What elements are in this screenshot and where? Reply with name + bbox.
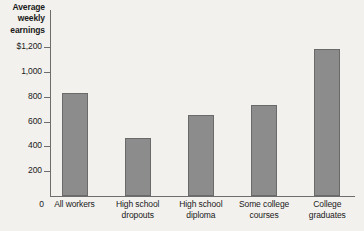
y-axis-line	[50, 10, 51, 197]
y-axis-tick	[44, 122, 50, 123]
y-axis-tick-label: 600	[0, 116, 42, 126]
chart-axis-title: Average weekly earnings	[0, 2, 45, 36]
bar	[251, 105, 277, 196]
axis-title-line-1: Average	[0, 2, 45, 13]
category-label-line: graduates	[287, 210, 364, 221]
bar-chart: Average weekly earnings 2004006008001,00…	[0, 0, 364, 231]
y-axis-tick-label: 800	[0, 91, 42, 101]
y-axis-tick	[44, 47, 50, 48]
bar	[314, 49, 340, 196]
x-axis-category-label: Collegegraduates	[287, 199, 364, 220]
y-axis-tick	[44, 146, 50, 147]
y-axis-tick-label: $1,200	[0, 41, 42, 51]
y-axis-tick-label: 200	[0, 165, 42, 175]
y-axis-tick-label: 1,000	[0, 66, 42, 76]
x-axis-line	[50, 196, 355, 197]
y-axis-tick	[44, 72, 50, 73]
y-axis-tick	[44, 171, 50, 172]
bar	[62, 93, 88, 196]
axis-title-line-2: weekly	[0, 13, 45, 24]
bar	[188, 115, 214, 196]
category-label-line: College	[287, 199, 364, 210]
y-axis-tick-label: 400	[0, 140, 42, 150]
bar	[125, 138, 151, 196]
axis-title-line-3: earnings	[0, 25, 45, 36]
y-axis-tick	[44, 97, 50, 98]
